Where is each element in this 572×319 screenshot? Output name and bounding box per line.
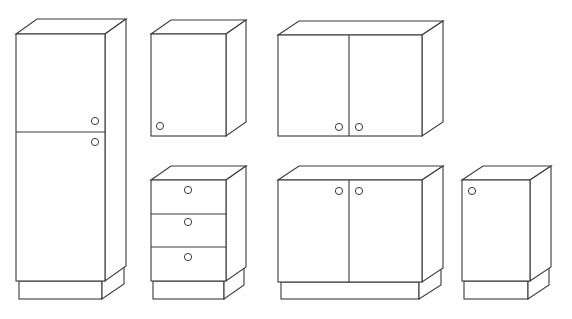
knob-icon xyxy=(335,187,342,194)
base-cabinet-double: Double-door base cabinet xyxy=(278,166,443,299)
front-face xyxy=(151,180,226,281)
knob-icon xyxy=(184,218,191,225)
knob-icon xyxy=(355,187,362,194)
side-face xyxy=(226,166,246,281)
front-face xyxy=(278,180,422,282)
knob-icon xyxy=(91,138,98,145)
cabinet-diagram: Tall cabinet with two doorsSingle-door w… xyxy=(0,0,572,319)
front-face xyxy=(151,34,226,136)
side-face xyxy=(105,19,126,281)
knob-icon xyxy=(156,122,163,129)
side-face xyxy=(226,20,246,136)
front-face xyxy=(16,34,105,281)
top-face xyxy=(278,166,443,180)
base-cabinet-single: Single-door base cabinet xyxy=(462,166,551,299)
tall-cabinet: Tall cabinet with two doors xyxy=(16,19,126,299)
wall-cabinet-single: Single-door wall cabinet xyxy=(151,20,246,136)
knob-icon xyxy=(468,187,475,194)
knob-icon xyxy=(184,253,191,260)
side-face xyxy=(422,21,443,136)
wall-cabinet-double: Double-door wall cabinet xyxy=(278,21,443,136)
front-face xyxy=(278,35,422,136)
side-face xyxy=(422,166,443,282)
knob-icon xyxy=(335,123,342,130)
knob-icon xyxy=(91,117,98,124)
side-face xyxy=(530,166,551,281)
front-face xyxy=(462,180,530,281)
knob-icon xyxy=(355,123,362,130)
top-face xyxy=(278,21,443,35)
knob-icon xyxy=(184,186,191,193)
drawer-unit: Three-drawer base unit xyxy=(151,166,246,299)
